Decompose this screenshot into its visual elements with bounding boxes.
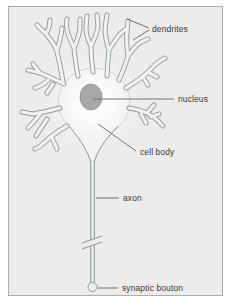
neuron-drawing	[0, 0, 233, 303]
nucleus-shape	[80, 84, 102, 110]
neuron-diagram: dendrites nucleus cell body axon synapti…	[0, 0, 233, 303]
diagram-panel	[9, 7, 223, 296]
synaptic-bouton-shape	[88, 283, 97, 292]
label-cell-body: cell body	[140, 147, 174, 157]
label-synaptic-bouton: synaptic bouton	[122, 283, 183, 293]
label-nucleus: nucleus	[178, 94, 208, 104]
label-axon: axon	[123, 193, 142, 203]
label-dendrites: dendrites	[152, 24, 188, 34]
